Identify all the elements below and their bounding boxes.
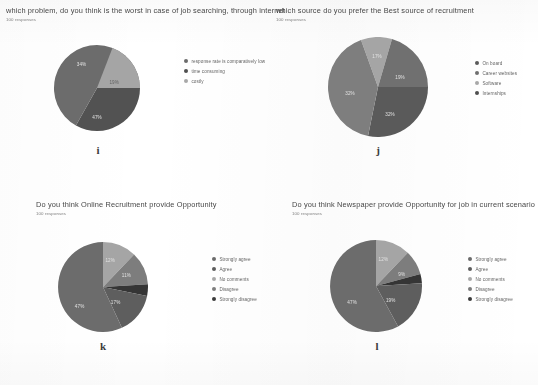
panel-k-letter: k bbox=[94, 340, 112, 352]
panel-k: Do you think Online Recruitment provide … bbox=[36, 200, 286, 335]
panel-l-title: Do you think Newspaper provide Opportuni… bbox=[292, 200, 538, 209]
panel-j: which source do you prefer the Best sour… bbox=[276, 6, 536, 143]
panel-l-chart-area: 12% 9% 19% 47% Strongly agree Agree No c… bbox=[292, 217, 538, 335]
panel-k-title: Do you think Online Recruitment provide … bbox=[36, 200, 286, 209]
panel-j-legend-label-1: On board bbox=[482, 61, 502, 66]
panel-k-legend-item-4[interactable]: Disagree bbox=[212, 285, 257, 294]
panel-l-label-2: 9% bbox=[398, 272, 405, 277]
panel-i-pie-chart: 34% 47% 19% bbox=[54, 37, 140, 139]
legend-swatch-icon bbox=[212, 287, 216, 291]
panel-k-legend-item-5[interactable]: Strongly disagree bbox=[212, 295, 257, 304]
panel-l-pie-chart: 12% 9% 19% 47% bbox=[330, 237, 422, 335]
panel-l-legend: Strongly agree Agree No comments Disagre… bbox=[468, 255, 513, 305]
panel-j-legend-label-2: Career websites bbox=[482, 71, 517, 76]
legend-swatch-icon bbox=[212, 267, 216, 271]
legend-swatch-icon bbox=[184, 79, 188, 83]
legend-swatch-icon bbox=[468, 297, 472, 301]
panel-i-legend-item-2[interactable]: time consuming bbox=[184, 67, 265, 76]
panel-k-chart-area: 12% 11% 17% 47% Strongly agree Agree No … bbox=[36, 217, 286, 335]
panel-i-label-2: 47% bbox=[92, 114, 102, 119]
panel-j-letter: j bbox=[369, 144, 387, 156]
panel-l-legend-label-3: No comments bbox=[475, 277, 504, 282]
legend-swatch-icon bbox=[468, 257, 472, 261]
legend-swatch-icon bbox=[475, 61, 479, 65]
panel-i-legend-item-3[interactable]: costly bbox=[184, 77, 265, 86]
panel-l-legend-label-1: Strongly agree bbox=[475, 257, 506, 262]
panel-l-label-1: 12% bbox=[379, 256, 389, 261]
panel-i: which problem, do you think is the worst… bbox=[6, 6, 271, 143]
panel-j-title: which source do you prefer the Best sour… bbox=[276, 6, 536, 15]
panel-j-legend-label-3: Software bbox=[482, 81, 501, 86]
panel-l-pie-svg bbox=[330, 237, 422, 335]
panel-i-letter: i bbox=[89, 144, 107, 156]
panel-l-legend-item-4[interactable]: Disagree bbox=[468, 285, 513, 294]
panel-k-pie-svg bbox=[58, 239, 148, 335]
panel-i-legend-label-1: response rate is comparatively low bbox=[191, 59, 265, 64]
panel-l-legend-item-2[interactable]: Agree bbox=[468, 265, 513, 274]
panel-l-letter: l bbox=[368, 340, 386, 352]
panel-i-pie-svg bbox=[54, 37, 140, 139]
panel-k-legend-label-5: Strongly disagree bbox=[219, 297, 256, 302]
panel-k-label-2: 11% bbox=[122, 273, 131, 278]
panel-j-label-2: 19% bbox=[395, 74, 405, 79]
panel-l: Do you think Newspaper provide Opportuni… bbox=[292, 200, 538, 335]
legend-swatch-icon bbox=[468, 277, 472, 281]
panel-k-legend-item-1[interactable]: Strongly agree bbox=[212, 255, 257, 264]
panel-l-legend-item-1[interactable]: Strongly agree bbox=[468, 255, 513, 264]
panel-i-legend: response rate is comparatively low time … bbox=[184, 57, 265, 87]
panel-j-legend-item-2[interactable]: Career websites bbox=[475, 69, 517, 78]
panel-j-pie-svg bbox=[328, 35, 428, 139]
panel-j-pie-chart: 17% 19% 32% 32% bbox=[328, 35, 428, 139]
panel-k-legend: Strongly agree Agree No comments Disagre… bbox=[212, 255, 257, 305]
panel-i-legend-item-1[interactable]: response rate is comparatively low bbox=[184, 57, 265, 66]
legend-swatch-icon bbox=[468, 267, 472, 271]
panel-j-legend-item-3[interactable]: Software bbox=[475, 79, 517, 88]
panel-k-legend-label-2: Agree bbox=[219, 267, 232, 272]
panel-k-pie-chart: 12% 11% 17% 47% bbox=[58, 239, 148, 335]
panel-j-legend: On board Career websites Software Intern… bbox=[475, 59, 517, 99]
legend-swatch-icon bbox=[468, 287, 472, 291]
panel-j-label-4: 32% bbox=[345, 91, 355, 96]
panel-k-label-4: 17% bbox=[111, 300, 121, 305]
panel-k-label-1: 12% bbox=[105, 258, 115, 263]
panel-l-legend-label-2: Agree bbox=[475, 267, 488, 272]
panel-k-legend-label-3: No comments bbox=[219, 277, 248, 282]
panel-i-chart-area: 34% 47% 19% response rate is comparative… bbox=[6, 23, 271, 143]
legend-swatch-icon bbox=[475, 81, 479, 85]
panel-j-legend-label-4: Internships bbox=[482, 91, 506, 96]
panel-j-chart-area: 17% 19% 32% 32% On board Career websites… bbox=[276, 23, 536, 143]
panel-k-legend-item-2[interactable]: Agree bbox=[212, 265, 257, 274]
panel-k-legend-item-3[interactable]: No comments bbox=[212, 275, 257, 284]
legend-swatch-icon bbox=[184, 59, 188, 63]
legend-swatch-icon bbox=[212, 297, 216, 301]
panel-l-legend-item-3[interactable]: No comments bbox=[468, 275, 513, 284]
legend-swatch-icon bbox=[184, 69, 188, 73]
panel-j-label-1: 17% bbox=[372, 53, 382, 58]
panel-i-label-3: 19% bbox=[109, 79, 119, 84]
panel-j-legend-item-4[interactable]: Internships bbox=[475, 89, 517, 98]
panel-l-legend-item-5[interactable]: Strongly disagree bbox=[468, 295, 513, 304]
panel-k-label-5: 47% bbox=[75, 304, 85, 309]
panel-j-label-3: 32% bbox=[385, 112, 395, 117]
panel-j-legend-item-1[interactable]: On board bbox=[475, 59, 517, 68]
panel-l-label-4: 19% bbox=[386, 297, 396, 302]
panel-i-label-1: 34% bbox=[77, 61, 87, 66]
legend-swatch-icon bbox=[475, 91, 479, 95]
panel-i-legend-label-3: costly bbox=[191, 79, 203, 84]
panel-l-legend-label-4: Disagree bbox=[475, 287, 494, 292]
panel-i-legend-label-2: time consuming bbox=[191, 69, 225, 74]
legend-swatch-icon bbox=[475, 71, 479, 75]
panel-j-slice-3 bbox=[368, 87, 428, 137]
panel-l-legend-label-5: Strongly disagree bbox=[475, 297, 512, 302]
panel-i-title: which problem, do you think is the worst… bbox=[6, 6, 271, 15]
legend-swatch-icon bbox=[212, 257, 216, 261]
panel-k-legend-label-1: Strongly agree bbox=[219, 257, 250, 262]
legend-swatch-icon bbox=[212, 277, 216, 281]
panel-k-legend-label-4: Disagree bbox=[219, 287, 238, 292]
panel-l-label-5: 47% bbox=[347, 299, 357, 304]
